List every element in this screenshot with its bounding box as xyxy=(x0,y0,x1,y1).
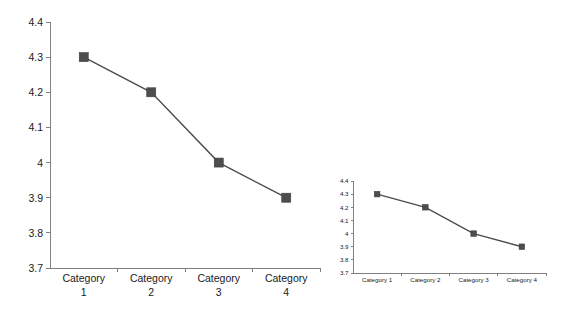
y-tick-label: 4.4 xyxy=(28,16,43,28)
y-tick-label: 3.7 xyxy=(340,269,349,276)
data-point-marker xyxy=(423,205,429,211)
data-point-marker xyxy=(147,88,156,97)
x-category-label: Category xyxy=(197,272,240,284)
y-tick-label: 4.4 xyxy=(340,177,349,184)
chart-page: { "page": { "background_color": "#ffffff… xyxy=(0,0,582,311)
x-category-label: Category 2 xyxy=(410,276,441,283)
data-point-marker xyxy=(374,191,380,197)
y-tick-label: 3.9 xyxy=(340,243,349,250)
main-line-chart: 4.44.34.24.143.93.83.7Category1Category2… xyxy=(0,0,340,311)
data-point-marker xyxy=(214,158,223,167)
x-category-label: Category xyxy=(265,272,308,284)
y-tick-label: 4.3 xyxy=(28,51,43,63)
x-category-label: Category xyxy=(130,272,173,284)
x-category-label: Category 4 xyxy=(507,276,538,283)
x-category-label: Category xyxy=(62,272,105,284)
y-tick-label: 4.1 xyxy=(340,217,349,224)
series-line xyxy=(377,194,522,247)
x-category-label: 4 xyxy=(283,286,289,298)
x-category-label: 3 xyxy=(216,286,222,298)
x-category-label: Category 3 xyxy=(458,276,489,283)
data-point-marker xyxy=(282,193,291,202)
small-line-chart: 4.44.34.24.143.93.83.7Category 1Category… xyxy=(336,160,582,311)
y-tick-label: 3.7 xyxy=(28,262,43,274)
y-tick-label: 4.3 xyxy=(340,190,349,197)
y-tick-label: 4 xyxy=(37,157,43,169)
y-tick-label: 4.1 xyxy=(28,121,43,133)
x-category-label: 1 xyxy=(81,286,87,298)
data-point-marker xyxy=(79,53,88,62)
y-tick-label: 4.2 xyxy=(28,86,43,98)
data-point-marker xyxy=(471,231,477,237)
series-line xyxy=(84,57,287,198)
y-tick-label: 3.8 xyxy=(340,256,349,263)
x-category-label: 2 xyxy=(148,286,154,298)
y-tick-label: 4 xyxy=(345,230,349,237)
y-tick-label: 4.2 xyxy=(340,204,349,211)
x-category-label: Category 1 xyxy=(362,276,393,283)
data-point-marker xyxy=(519,244,525,250)
y-tick-label: 3.8 xyxy=(28,227,43,239)
y-tick-label: 3.9 xyxy=(28,192,43,204)
